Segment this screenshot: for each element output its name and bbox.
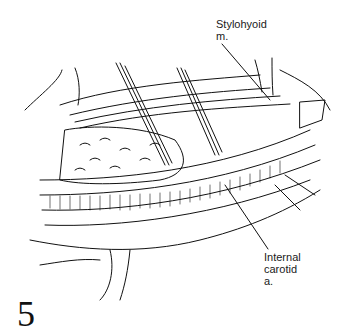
- figure-number: 5: [17, 296, 35, 332]
- label-internal-carotid-artery: Internal carotid a.: [264, 251, 301, 287]
- label-stylohyoid-muscle: Stylohyoid m.: [216, 18, 267, 42]
